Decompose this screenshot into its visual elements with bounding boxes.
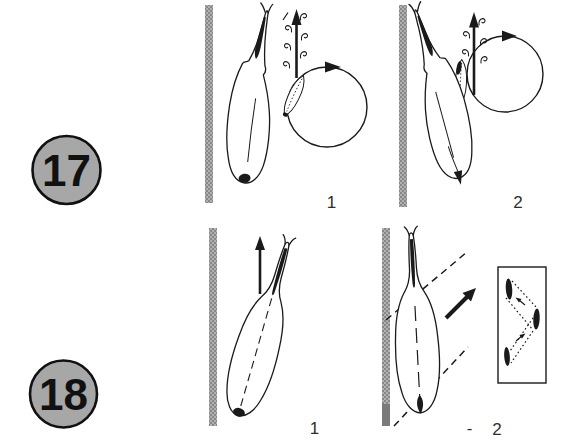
panel-18-1: 1 [209,228,319,438]
swim-direction-arrow [446,288,476,318]
call-squiggle [283,62,289,68]
zigzag-path-inset [498,267,546,383]
panel-label-1: 1 [327,193,336,212]
panel-17-1: 1 [205,1,367,212]
displaying-bird [223,1,278,185]
displaying-bird [404,0,481,189]
call-squiggle [284,44,290,50]
shore-wall [205,5,213,203]
arrow-head [255,236,265,250]
call-squiggle [301,34,307,40]
panel-18-2: - 2 [382,226,546,439]
figure-badge-18: 18 [30,361,97,428]
call-squiggle [300,14,306,20]
swimming-bird [389,226,442,416]
ascent-arrow-with-calls [283,9,308,78]
stray-tick [283,13,288,21]
panel-label-2: 2 [492,420,501,439]
call-squiggle [285,26,291,32]
badge-number-18: 18 [39,370,88,419]
figure-page: 17 18 1 [0,0,566,444]
call-squiggle [463,32,469,38]
circling-path [467,36,543,112]
shore-wall [382,228,390,426]
figure-badge-17: 17 [33,136,101,204]
swimming-bird [217,230,310,422]
ascent-arrow-head [292,9,302,25]
arrow-shaft [446,296,468,318]
panel-label-1: 1 [310,419,319,438]
shore-wall-dark-segment [382,404,390,426]
circling-direction-arrowhead [325,62,341,73]
badge-number-17: 17 [42,146,91,195]
circling-direction-arrowhead [502,31,517,42]
panel-17-2: 2 [399,0,543,212]
shore-wall [209,228,217,426]
ascent-arrow-head [469,12,479,28]
shore-wall [399,5,407,207]
ghost-bird-on-circle [279,73,308,118]
call-squiggle [462,50,468,56]
call-squiggle [479,19,485,25]
panel-label-2: 2 [513,193,522,212]
call-squiggle [481,57,487,63]
swim-direction-arrow [255,236,265,294]
stray-dash-mark: - [467,419,473,438]
figure-canvas: 17 18 1 [0,0,566,444]
call-squiggle [300,52,306,58]
